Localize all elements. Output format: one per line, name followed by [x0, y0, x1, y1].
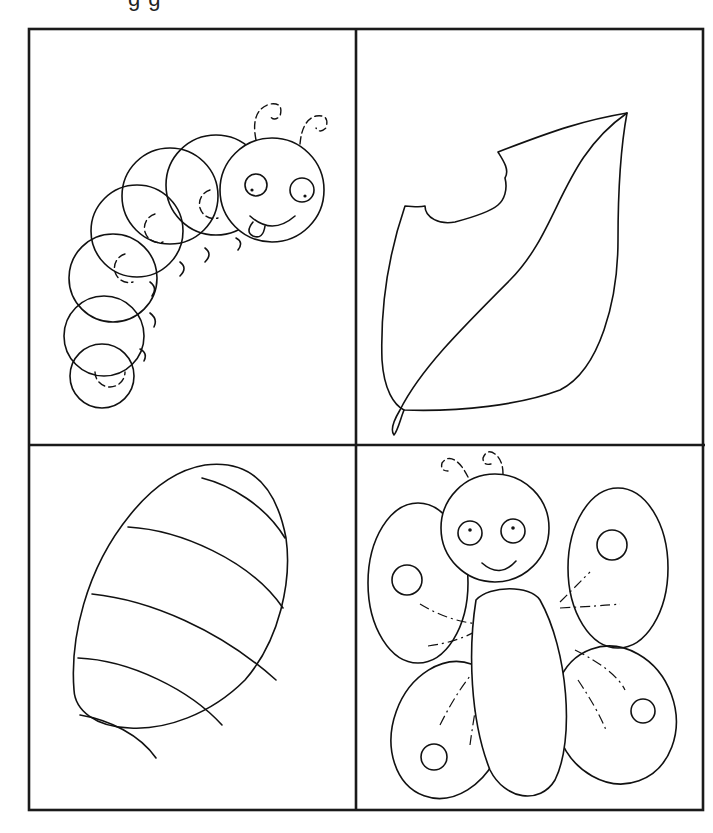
caterpillar-illustration — [64, 104, 327, 408]
grid-frame — [29, 29, 705, 810]
panel-butterfly: Butterfly — [370, 460, 371, 461]
cocoon-illustration — [73, 464, 287, 758]
panel-caterpillar: Caterpillar — [40, 40, 41, 41]
panel-leaf: Eaten leaf — [370, 40, 371, 41]
panel-cocoon: Cocoon — [40, 460, 41, 461]
butterfly-illustration — [368, 452, 695, 815]
leaf-illustration — [382, 113, 627, 435]
worksheet — [0, 0, 713, 833]
